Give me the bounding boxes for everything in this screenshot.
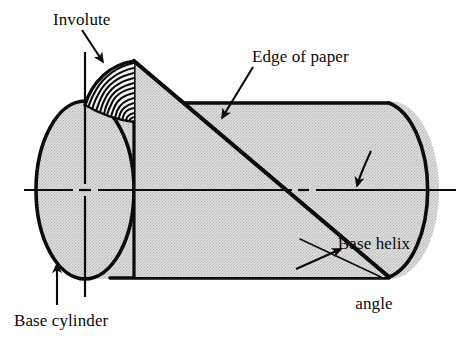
edge-of-paper-label: Edge of paper xyxy=(252,47,349,67)
figure-root: Involute Edge of paper Base helix angle … xyxy=(0,0,466,347)
base-helix-angle-label-line1: Base helix xyxy=(318,234,430,254)
base-cylinder-label: Base cylinder xyxy=(14,311,108,331)
base-helix-angle-label-line2: angle xyxy=(318,294,430,314)
base-helix-angle-label: Base helix angle xyxy=(318,194,430,347)
involute-label: Involute xyxy=(53,10,110,30)
